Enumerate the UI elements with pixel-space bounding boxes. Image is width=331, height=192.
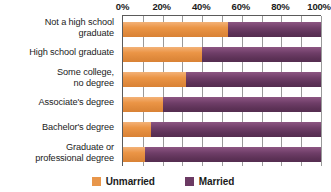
bar-row xyxy=(123,122,321,137)
gridline xyxy=(281,16,282,166)
bar-segment-married xyxy=(186,72,321,87)
gridline xyxy=(202,16,203,166)
bar-row xyxy=(123,47,321,62)
legend-item: Married xyxy=(185,176,234,187)
gridline xyxy=(182,16,183,166)
bar-row xyxy=(123,22,321,37)
gridline xyxy=(163,16,164,166)
bar-segment-married xyxy=(151,122,321,137)
chart-legend: UnmarriedMarried xyxy=(0,172,326,190)
category-label: High school graduate xyxy=(0,47,114,58)
bar-segment-married xyxy=(228,22,321,37)
category-label: Bachelor's degree xyxy=(0,122,114,133)
x-axis-tick-label: 20% xyxy=(152,1,170,12)
category-label-line: Associate's degree xyxy=(0,97,114,108)
bar-segment-married xyxy=(145,147,321,162)
category-label-line: graduate xyxy=(0,28,114,39)
gridline xyxy=(143,16,144,166)
category-label: Not a high schoolgraduate xyxy=(0,17,114,38)
y-axis-category-labels: Not a high schoolgraduateHigh school gra… xyxy=(0,15,118,165)
x-axis-tick-label: 40% xyxy=(192,1,210,12)
plot-area xyxy=(122,15,321,166)
category-label: Graduate orprofessional degree xyxy=(0,142,114,163)
bar-segment-unmarried xyxy=(123,122,151,137)
category-label: Associate's degree xyxy=(0,97,114,108)
gridline xyxy=(262,16,263,166)
category-label-line: Not a high school xyxy=(0,17,114,28)
category-label-line: no degree xyxy=(0,78,114,89)
legend-label: Married xyxy=(199,176,234,187)
legend-item: Unmarried xyxy=(92,176,155,187)
bar-segment-unmarried xyxy=(123,47,202,62)
bar-row xyxy=(123,147,321,162)
category-label: Some college,no degree xyxy=(0,67,114,88)
legend-swatch-icon xyxy=(92,177,101,186)
gridline xyxy=(222,16,223,166)
bar-segment-married xyxy=(163,97,321,112)
x-axis-tick-label: 60% xyxy=(232,1,250,12)
bar-segment-unmarried xyxy=(123,147,145,162)
legend-label: Unmarried xyxy=(106,176,155,187)
x-axis-tick-label: 100% xyxy=(307,1,331,12)
gridline xyxy=(301,16,302,166)
gridline xyxy=(321,16,322,166)
x-axis-tick-label: 80% xyxy=(271,1,289,12)
bar-segment-unmarried xyxy=(123,72,186,87)
category-label-line: High school graduate xyxy=(0,47,114,58)
bar-row xyxy=(123,72,321,87)
category-label-line: Graduate or xyxy=(0,142,114,153)
category-label-line: professional degree xyxy=(0,153,114,164)
category-label-line: Some college, xyxy=(0,67,114,78)
bar-segment-unmarried xyxy=(123,22,228,37)
x-axis-tick-labels: 0%20%40%60%80%100% xyxy=(122,1,320,15)
legend-swatch-icon xyxy=(185,177,194,186)
gridline xyxy=(242,16,243,166)
bar-segment-unmarried xyxy=(123,97,163,112)
x-axis-tick-label: 0% xyxy=(116,1,129,12)
category-label-line: Bachelor's degree xyxy=(0,122,114,133)
bar-row xyxy=(123,97,321,112)
bar-segment-married xyxy=(202,47,321,62)
